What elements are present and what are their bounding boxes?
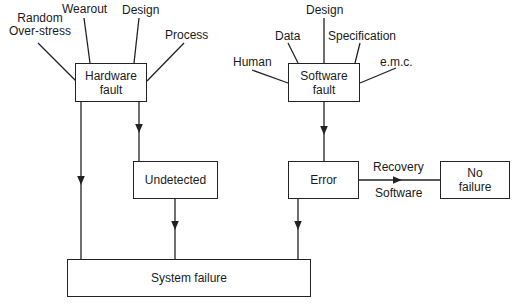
- cause-specification: Specification: [328, 30, 396, 43]
- edge-label-software: Software: [375, 187, 422, 200]
- no-failure-line1: No: [467, 166, 482, 180]
- node-hardware-fault: Hardware fault: [75, 63, 147, 102]
- cause-human: Human: [233, 56, 272, 69]
- cause-overstress-label: Over-stress: [8, 25, 72, 38]
- edge-label-recovery: Recovery: [373, 161, 424, 174]
- cause-wearout: Wearout: [62, 3, 107, 16]
- no-failure-line2: failure: [459, 180, 492, 194]
- software-fault-line1: Software: [300, 69, 347, 83]
- software-fault-line2: fault: [313, 83, 336, 97]
- cause-data: Data: [275, 30, 300, 43]
- cause-sw-design: Design: [306, 4, 343, 17]
- hardware-fault-line2: fault: [100, 83, 123, 97]
- cause-hw-design: Design: [122, 4, 159, 17]
- node-error: Error: [288, 161, 359, 199]
- cause-emc: e.m.c.: [380, 56, 413, 69]
- cause-process: Process: [165, 29, 208, 42]
- node-undetected: Undetected: [133, 161, 218, 199]
- node-system-failure: System failure: [67, 259, 311, 297]
- node-software-fault: Software fault: [288, 63, 360, 102]
- hardware-fault-line1: Hardware: [85, 69, 137, 83]
- node-no-failure: No failure: [440, 161, 510, 199]
